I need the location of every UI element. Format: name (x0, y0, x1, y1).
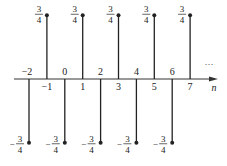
x-tick-label: 5 (152, 81, 157, 92)
value-label-n5-den: 4 (144, 15, 149, 25)
x-tick-label: 6 (170, 66, 175, 77)
value-label-n2-num: 3 (89, 134, 94, 144)
stem-marker-n1 (81, 13, 85, 17)
value-label-n5-num: 3 (144, 4, 149, 14)
stem-marker-n5 (152, 13, 156, 17)
value-label-n1-den: 4 (72, 15, 77, 25)
stem-plot: n···−234−−134034−134234−334434−534634−73… (0, 0, 227, 166)
value-label-n6-sign: − (153, 139, 158, 149)
value-label-n7-num: 3 (180, 4, 185, 14)
value-label-n7-den: 4 (180, 15, 185, 25)
x-tick-label: −2 (22, 66, 33, 77)
x-tick-label: −1 (42, 81, 53, 92)
stem-marker-n-1 (45, 13, 49, 17)
value-label-n-1-den: 4 (37, 15, 42, 25)
value-label-n-1-num: 3 (37, 4, 42, 14)
value-label-n-2-sign: − (9, 139, 14, 149)
value-label-n6-num: 3 (161, 134, 166, 144)
stem-marker-n6 (170, 141, 174, 145)
value-label-n3-den: 4 (108, 15, 113, 25)
x-tick-label: 2 (98, 66, 103, 77)
x-tick-label: 7 (188, 81, 193, 92)
value-label-n-2-num: 3 (18, 134, 23, 144)
x-tick-label: 3 (116, 81, 121, 92)
continuation-ellipsis: ··· (205, 59, 214, 69)
stem-marker-n7 (188, 13, 192, 17)
x-axis-arrow-icon (209, 77, 218, 82)
stem-marker-n2 (99, 141, 103, 145)
x-axis-label: n (212, 82, 217, 93)
value-label-n1-num: 3 (72, 4, 77, 14)
value-label-n0-sign: − (45, 139, 50, 149)
x-tick-label: 1 (80, 81, 85, 92)
value-label-n0-num: 3 (54, 134, 59, 144)
stem-marker-n4 (134, 141, 138, 145)
stem-marker-n3 (117, 13, 121, 17)
stem-marker-n0 (63, 141, 67, 145)
value-label-n4-num: 3 (125, 134, 130, 144)
value-label-n-2-den: 4 (18, 145, 23, 155)
value-label-n2-sign: − (81, 139, 86, 149)
value-label-n3-num: 3 (108, 4, 113, 14)
stem-marker-n-2 (27, 141, 31, 145)
x-tick-label: 4 (134, 66, 139, 77)
figure-caption-faint (56, 152, 176, 162)
value-label-n4-sign: − (117, 139, 122, 149)
x-tick-label: 0 (62, 66, 67, 77)
